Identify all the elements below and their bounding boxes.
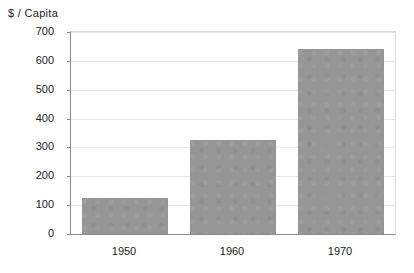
y-tick-mark (67, 176, 71, 177)
y-tick-label: 600 (0, 54, 62, 66)
y-tick-mark (67, 119, 71, 120)
y-tick-label: 400 (0, 112, 62, 124)
y-tick-label: 500 (0, 83, 62, 95)
y-tick-mark (67, 90, 71, 91)
y-tick-mark (67, 234, 71, 235)
y-axis-title: $ / Capita (8, 7, 58, 19)
y-axis-tick-labels: 0100200300400500600700 (0, 31, 62, 233)
x-tick-label: 1970 (328, 245, 352, 257)
bar (190, 140, 276, 234)
y-tick-label: 0 (0, 227, 62, 239)
y-tick-label: 300 (0, 140, 62, 152)
y-tick-mark (67, 32, 71, 33)
gridline (71, 32, 395, 33)
x-tick-label: 1960 (220, 245, 244, 257)
y-tick-mark (67, 205, 71, 206)
y-tick-label: 200 (0, 169, 62, 181)
bar (298, 49, 384, 234)
x-tick-label: 1950 (112, 245, 136, 257)
x-axis-tick-labels: 195019601970 (70, 245, 394, 263)
bar (82, 198, 168, 234)
y-tick-label: 100 (0, 198, 62, 210)
y-tick-mark (67, 147, 71, 148)
y-tick-label: 700 (0, 25, 62, 37)
y-tick-mark (67, 61, 71, 62)
bar-chart: $ / Capita 0100200300400500600700 195019… (0, 0, 414, 273)
plot-area (70, 31, 396, 235)
